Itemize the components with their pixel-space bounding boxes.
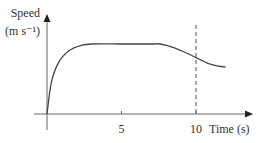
y-axis-arrow [44, 14, 51, 22]
x-axis-arrow [245, 111, 253, 118]
x-tick-label: 10 [190, 122, 202, 136]
x-axis-label: Time (s) [209, 122, 250, 136]
y-axis-label: Speed [11, 6, 40, 20]
speed-curve [47, 44, 226, 114]
y-axis-units: (m s⁻¹) [5, 24, 40, 38]
x-tick-label: 5 [119, 122, 125, 136]
speed-time-chart: 510 Speed (m s⁻¹) Time (s) [0, 0, 261, 143]
